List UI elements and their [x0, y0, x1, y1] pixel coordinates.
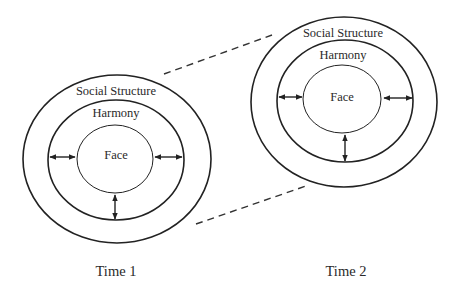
face-harmony-structure-diagram: Social Structure Harmony Face Time 1 Soc… — [0, 0, 458, 281]
panel-time-1: Social Structure Harmony Face Time 1 — [23, 75, 211, 279]
harmony-label: Harmony — [319, 48, 367, 62]
face-label: Face — [104, 148, 128, 162]
caption-time-2: Time 2 — [326, 263, 367, 279]
harmony-label: Harmony — [92, 106, 140, 120]
panel-time-2: Social Structure Harmony Face Time 2 — [251, 17, 437, 279]
caption-time-1: Time 1 — [96, 263, 137, 279]
face-label: Face — [330, 90, 354, 104]
dashed-connector-upper — [164, 35, 272, 74]
social-structure-label: Social Structure — [303, 26, 384, 40]
dashed-connector-lower — [196, 186, 306, 224]
social-structure-label: Social Structure — [76, 84, 157, 98]
